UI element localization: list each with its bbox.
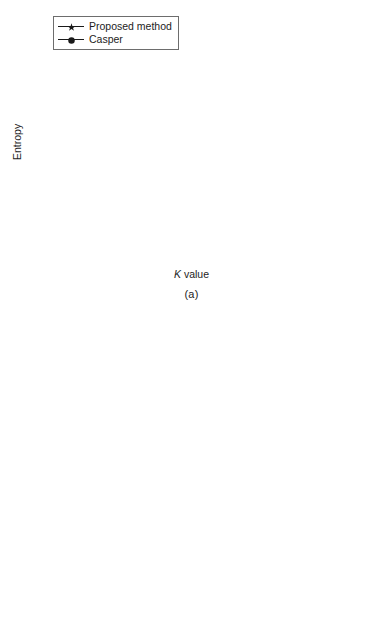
chart-panel-a: Entropy K value (a) Proposed method Casp…: [0, 0, 383, 313]
x-axis-title-a-rest: value: [181, 268, 209, 280]
legend-a-label-1: Casper: [89, 33, 123, 46]
panel-caption-a: (a): [0, 288, 383, 300]
legend-a-item-1: Casper: [58, 33, 172, 46]
x-axis-title-a-italic: K: [174, 268, 181, 280]
plot-area-b: [0, 313, 383, 626]
legend-star-icon: [58, 21, 84, 33]
y-axis-title-a: Entropy: [11, 124, 23, 160]
legend-circle-icon: [58, 34, 84, 46]
legend-a-item-0: Proposed method: [58, 20, 172, 33]
y-axis-title-a-text: Entropy: [11, 124, 23, 160]
chart-panel-b: K value (b) Casper Proposed method: [0, 313, 383, 626]
legend-a-label-0: Proposed method: [89, 20, 172, 33]
figure-container: Entropy K value (a) Proposed method Casp…: [0, 0, 383, 626]
x-axis-title-a: K value: [0, 268, 383, 280]
legend-a: Proposed method Casper: [53, 16, 179, 50]
